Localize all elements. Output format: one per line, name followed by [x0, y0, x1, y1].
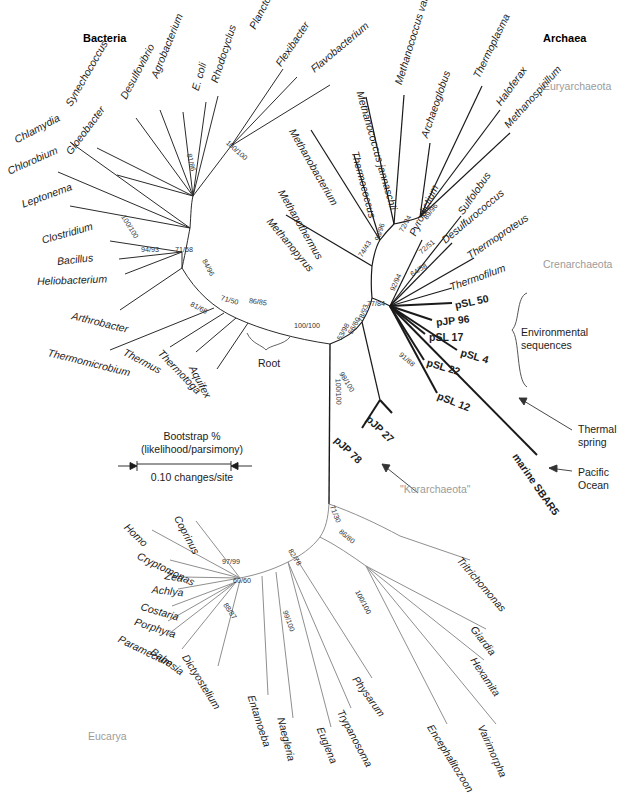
annotation-env-line2: sequences — [521, 339, 588, 352]
annotation-thermal-line1: Thermal — [578, 423, 617, 436]
bootstrap-legend: Bootstrap % (likelihood/parsimony) 0.10 … — [118, 430, 266, 484]
bootstrap-value: 71/58 — [175, 246, 193, 253]
taxon-label-zea: Zea — [164, 570, 184, 583]
bootstrap-value: 60/60 — [233, 577, 251, 584]
bootstrap-value: 86/85 — [248, 297, 267, 307]
annotation-env-line1: Environmental — [521, 326, 588, 339]
bootstrap-value: 100/100 — [334, 378, 342, 404]
bootstrap-value: 94/93 — [141, 246, 159, 253]
archaea-branches — [286, 86, 537, 504]
group-label-crenarchaeota: Crenarchaeota — [543, 258, 612, 270]
annotation-environmental-sequences: Environmental sequences — [521, 326, 588, 351]
annotation-thermal-line2: spring — [578, 436, 617, 449]
taxon-label-psl-17: pSL 17 — [429, 332, 463, 343]
annotation-pacific-line2: Ocean — [578, 479, 609, 492]
annotation-arrows — [382, 398, 572, 493]
legend-line-2: (likelihood/parsimony) — [118, 443, 266, 456]
group-label-eucarya: Eucarya — [88, 730, 127, 742]
taxon-label-heliobacterium: Heliobacterium — [37, 274, 107, 287]
annotation-thermal-spring: Thermal spring — [578, 423, 617, 448]
bootstrap-value: 100/100 — [294, 322, 320, 329]
bootstrap-value: 97/99 — [222, 558, 240, 565]
root-brace — [247, 333, 290, 350]
legend-scale-label: 0.10 changes/site — [118, 471, 266, 484]
bootstrap-value: 77/84 — [367, 300, 385, 307]
phylogenetic-tree-figure: Bacteria Archaea Euryarchaeota Crenarcha… — [0, 0, 626, 807]
root-label: Root — [258, 357, 280, 370]
domain-label-archaea: Archaea — [543, 32, 586, 44]
legend-line-1: Bootstrap % — [118, 430, 266, 443]
group-label-korarchaeota: "Korarchaeota" — [400, 483, 471, 495]
annotation-pacific-line1: Pacific — [578, 466, 609, 479]
annotation-pacific-ocean: Pacific Ocean — [578, 466, 609, 491]
